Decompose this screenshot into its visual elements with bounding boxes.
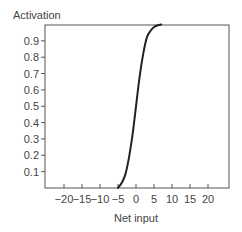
y-tick-label: 0.8: [24, 51, 39, 63]
y-axis-label: Activation: [13, 9, 61, 21]
x-tick-label: −20: [55, 193, 74, 205]
x-tick-label: −5: [112, 193, 125, 205]
x-axis-label: Net input: [114, 212, 158, 224]
y-tick-label: 0.5: [24, 100, 39, 112]
x-tick-label: 10: [166, 193, 178, 205]
x-tick-label: 15: [184, 193, 196, 205]
x-tick-label: 0: [133, 193, 139, 205]
y-tick-label: 0.7: [24, 68, 39, 80]
plot-frame: [45, 25, 229, 188]
x-tick-label: 5: [151, 193, 157, 205]
x-tick-label: −15: [73, 193, 92, 205]
y-tick-label: 0.6: [24, 84, 39, 96]
y-tick-label: 0.1: [24, 166, 39, 178]
x-tick-label: 20: [202, 193, 214, 205]
x-axis-ticks: −20−15−10−505101520: [55, 184, 214, 205]
y-tick-label: 0.3: [24, 133, 39, 145]
sigmoid-curve: [118, 25, 161, 189]
y-tick-label: 0.9: [24, 35, 39, 47]
y-tick-label: 0.2: [24, 149, 39, 161]
y-tick-label: 0.4: [24, 117, 39, 129]
activation-chart: Activation 0.10.20.30.40.50.60.70.80.9 −…: [0, 0, 242, 232]
x-tick-label: −10: [91, 193, 110, 205]
y-axis-ticks: 0.10.20.30.40.50.60.70.80.9: [24, 35, 45, 178]
